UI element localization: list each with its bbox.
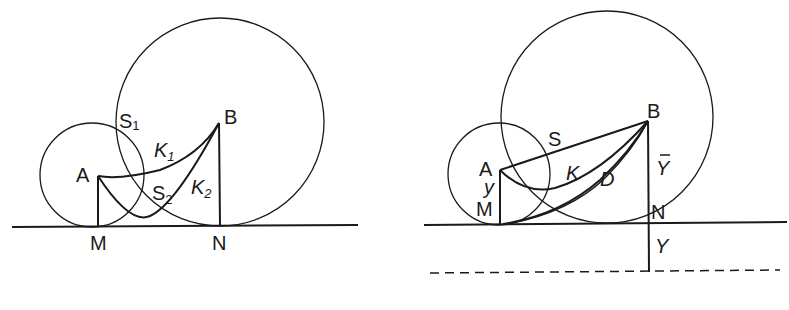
right-large-circle [501,11,713,223]
left-label-K1: K1 [154,139,175,164]
right-label-y: y [482,176,495,198]
right-segment-BN-extended [648,121,649,272]
right-label-D: D [600,168,614,190]
left-label-S2: S2 [152,182,173,207]
right-label-S: S [548,128,561,150]
right-label-N: N [651,201,665,223]
left-label-N: N [212,232,226,254]
right-label-M: M [476,198,493,220]
left-label-A: A [76,164,90,186]
left-label-S1: S1 [119,110,140,133]
left-label-B: B [224,106,237,128]
right-label-K: K [566,162,581,184]
right-figure: A y M B S K D Y N Y [424,11,787,273]
left-label-K2: K2 [191,176,212,201]
left-segment-BN [219,123,220,226]
right-label-Y: Y [655,235,670,257]
svg-text:Y: Y [656,157,671,179]
right-label-Ybar: Y [656,155,671,179]
left-ground-line [12,225,358,227]
diagram-canvas: A B M N S1 S2 K1 K2 A y M B S K D Y N Y [0,0,789,310]
right-label-B: B [647,100,660,122]
left-label-M: M [90,232,107,254]
right-dashed-line [430,270,780,273]
left-figure: A B M N S1 S2 K1 K2 [12,18,358,254]
